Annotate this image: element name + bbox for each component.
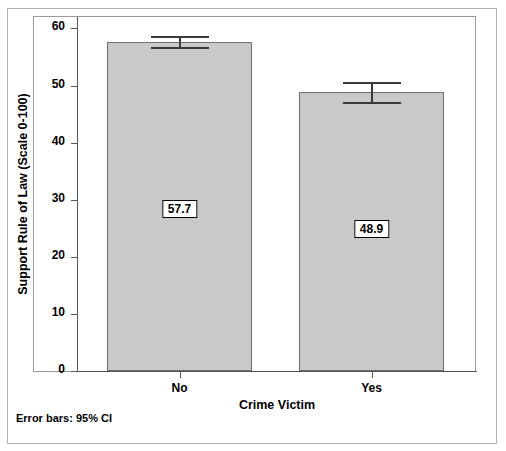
y-tick-label: 10	[52, 306, 65, 318]
data-label-yes: 48.9	[354, 220, 389, 238]
y-tick-label: 30	[52, 192, 65, 204]
y-tick-label: 50	[52, 78, 65, 90]
y-axis-title: Support Rule of Law (Scale 0-100)	[14, 17, 32, 371]
y-tick-mark	[71, 200, 77, 201]
y-tick-mark	[71, 28, 77, 29]
error-bar-cap-upper-no	[151, 36, 209, 38]
y-tick-mark	[71, 143, 77, 144]
x-tick-mark-no	[180, 371, 181, 378]
y-tick-label: 60	[52, 20, 65, 32]
error-bar-cap-lower-yes	[343, 102, 401, 104]
y-tick-mark	[71, 86, 77, 87]
error-bar-stem-yes	[371, 82, 373, 102]
error-bar-caption: Error bars: 95% CI	[16, 412, 112, 424]
x-tick-label-no: No	[172, 381, 188, 395]
x-tick-mark-yes	[372, 371, 373, 378]
y-tick-label: 40	[52, 135, 65, 147]
y-tick-mark	[71, 371, 77, 372]
y-tick-mark	[71, 314, 77, 315]
error-bar-cap-lower-no	[151, 47, 209, 49]
bar-chart-figure: Support Rule of Law (Scale 0-100) 010203…	[0, 0, 506, 451]
y-axis-line	[77, 17, 78, 372]
error-bar-cap-upper-yes	[343, 82, 401, 84]
x-tick-label-yes: Yes	[361, 381, 382, 395]
x-axis-line	[77, 371, 477, 372]
y-tick-label: 20	[52, 249, 65, 261]
data-label-no: 57.7	[162, 200, 197, 218]
x-axis-title: Crime Victim	[77, 398, 477, 412]
y-tick-mark	[71, 257, 77, 258]
y-tick-label: 0	[58, 363, 65, 375]
